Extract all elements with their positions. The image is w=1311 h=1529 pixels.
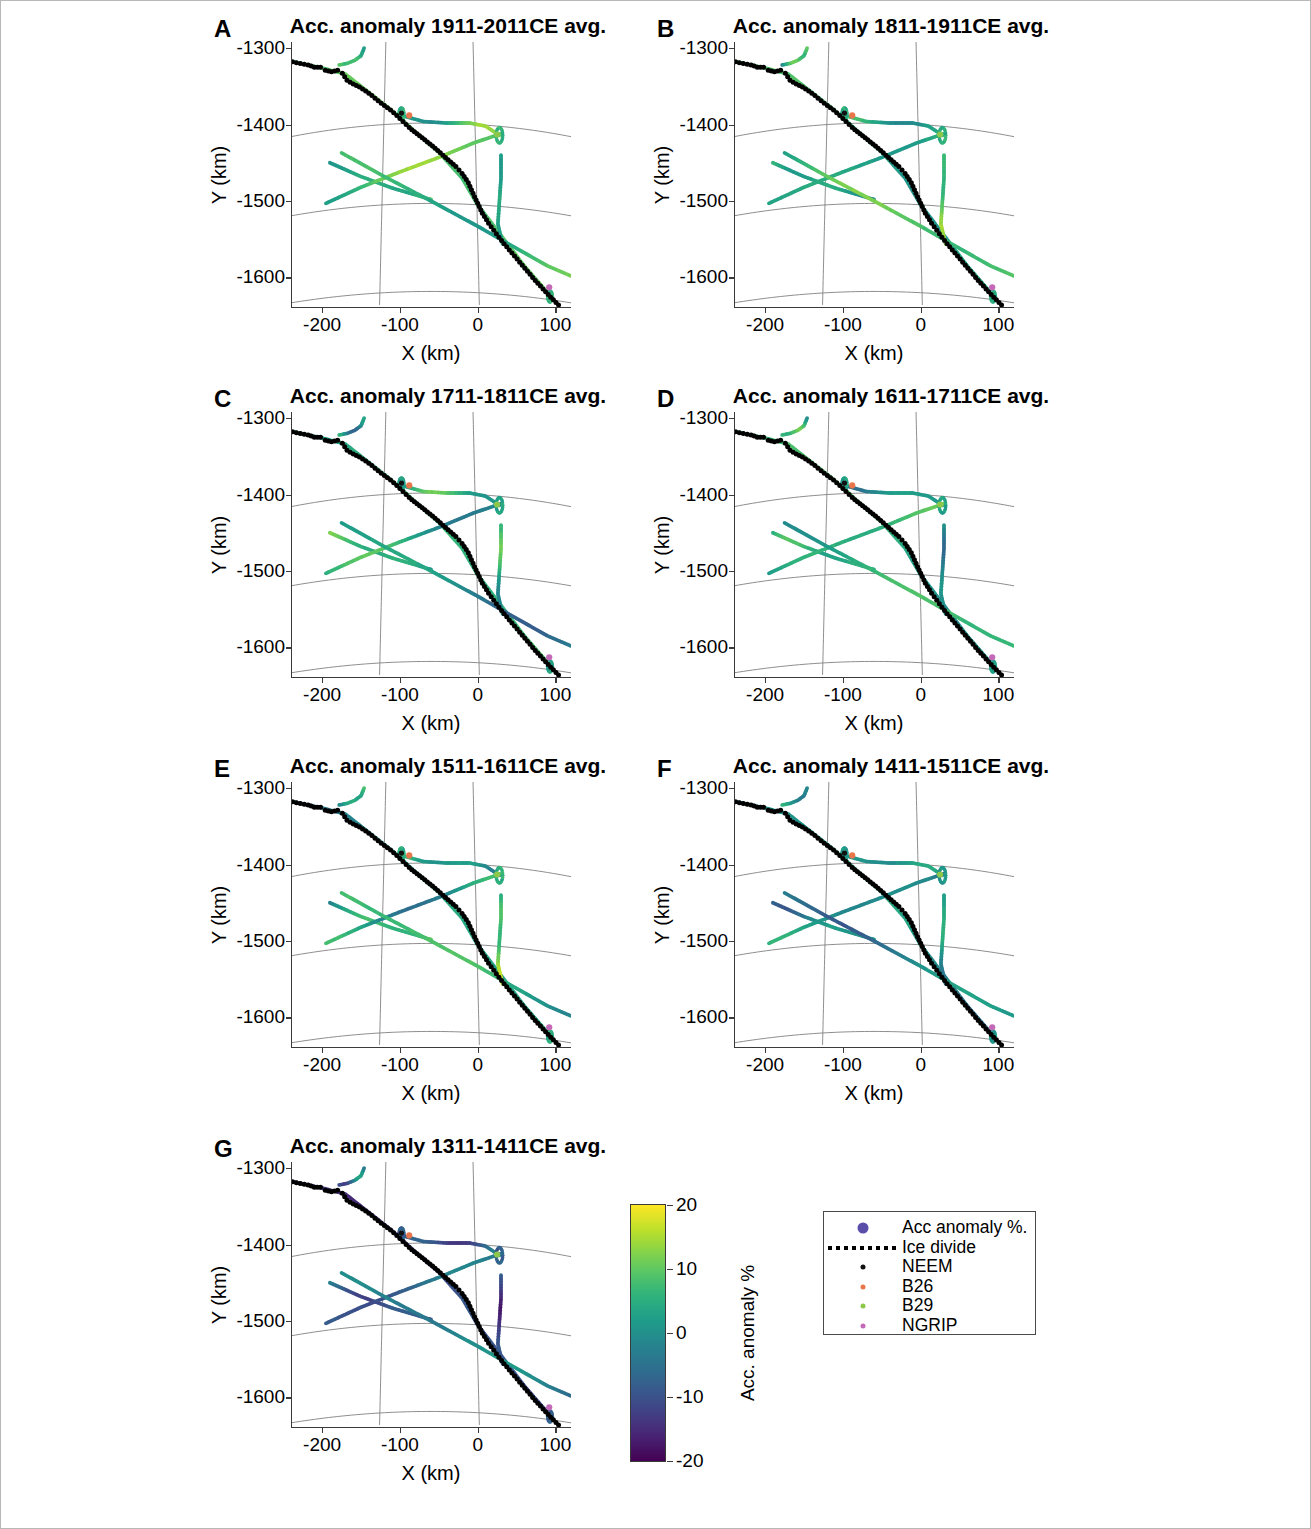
x-tick — [998, 677, 999, 683]
y-tick — [729, 788, 735, 789]
x-tick — [322, 307, 323, 313]
x-tick — [998, 1047, 999, 1053]
x-axis-label: X (km) — [402, 1462, 461, 1485]
ice-divide — [291, 1179, 561, 1427]
site-marker-ngrip — [546, 654, 552, 660]
y-tick — [286, 647, 292, 648]
site-marker-neem — [399, 850, 404, 855]
y-tick — [286, 1017, 292, 1018]
y-axis-label: Y (km) — [208, 146, 231, 205]
x-tick-label: 100 — [963, 684, 1033, 706]
x-axis-label: X (km) — [402, 342, 461, 365]
site-marker-b26 — [406, 112, 412, 118]
y-axis-line — [291, 42, 292, 308]
y-tick — [286, 788, 292, 789]
y-tick-label: -1300 — [215, 1157, 285, 1179]
y-tick — [729, 495, 735, 496]
ice-divide — [734, 799, 1004, 1047]
legend-label: Acc anomaly %. — [902, 1219, 1027, 1237]
y-tick-label: -1300 — [215, 777, 285, 799]
site-marker-neem — [842, 480, 847, 485]
x-tick-label: 100 — [520, 314, 590, 336]
site-marker-b26 — [406, 852, 412, 858]
y-tick-label: -1400 — [215, 114, 285, 136]
y-tick — [286, 418, 292, 419]
legend-item-acc-anomaly: Acc anomaly %. — [824, 1218, 1035, 1238]
ice-divide — [734, 59, 1004, 307]
y-tick — [729, 865, 735, 866]
site-marker-neem — [399, 110, 404, 115]
x-tick-label: -200 — [287, 1434, 357, 1456]
ice-divide — [291, 799, 561, 1047]
colorbar-tick-label: -20 — [676, 1450, 703, 1472]
x-tick-label: 0 — [886, 1054, 956, 1076]
y-axis-label: Y (km) — [208, 516, 231, 575]
legend-label: B29 — [902, 1297, 933, 1315]
x-tick-label: 100 — [520, 1434, 590, 1456]
x-axis-label: X (km) — [845, 712, 904, 735]
y-tick — [729, 277, 735, 278]
y-tick — [286, 1245, 292, 1246]
y-tick — [729, 647, 735, 648]
site-marker-b26 — [406, 1232, 412, 1238]
ice-divide-icon — [824, 1238, 902, 1258]
y-tick — [729, 1017, 735, 1018]
colorbar-tick-label: -10 — [676, 1386, 703, 1408]
legend-item-b26: B26 — [824, 1277, 1035, 1297]
x-tick-label: 0 — [443, 684, 513, 706]
graticule — [291, 782, 571, 1045]
x-tick-label: -100 — [365, 1434, 435, 1456]
colorbar-tick — [667, 1333, 673, 1334]
site-marker-neem — [399, 1230, 404, 1235]
panel-plot-b — [734, 42, 1014, 308]
ice-divide — [291, 429, 561, 677]
y-tick — [286, 941, 292, 942]
x-tick — [843, 307, 844, 313]
y-tick — [729, 201, 735, 202]
y-axis-line — [291, 412, 292, 678]
figure-page: AAcc. anomaly 1911-2011CE avg.-1300-1400… — [0, 0, 1311, 1529]
radar-tracks — [735, 786, 1014, 1044]
plot-area: -1300-1400-1500-1600-200-1000100Y (km)X … — [734, 412, 1014, 678]
panel-title: Acc. anomaly 1711-1811CE avg. — [248, 384, 648, 407]
graticule — [291, 412, 571, 675]
y-tick-label: -1600 — [215, 1386, 285, 1408]
legend-box: Acc anomaly %.Ice divideNEEMB26B29NGRIP — [823, 1211, 1036, 1335]
x-tick-label: -100 — [808, 314, 878, 336]
large-dot-icon — [858, 1223, 869, 1234]
x-tick-label: 100 — [520, 1054, 590, 1076]
site-marker-neem — [842, 110, 847, 115]
y-tick-label: -1400 — [215, 484, 285, 506]
x-axis-label: X (km) — [402, 1082, 461, 1105]
panel-plot-a — [291, 42, 571, 308]
site-marker-b29 — [494, 871, 500, 877]
x-tick — [843, 1047, 844, 1053]
x-tick — [478, 1427, 479, 1433]
x-tick-label: 0 — [886, 314, 956, 336]
x-tick — [400, 677, 401, 683]
y-axis-label: Y (km) — [208, 1266, 231, 1325]
x-axis-line — [291, 677, 571, 678]
site-marker-ngrip — [546, 1404, 552, 1410]
graticule — [734, 412, 1014, 675]
site-marker-ngrip — [989, 284, 995, 290]
panel-d: DAcc. anomaly 1611-1711CE avg.-1300-1400… — [649, 379, 1099, 747]
x-tick-label: 0 — [443, 1054, 513, 1076]
dotted-line-icon — [828, 1246, 896, 1250]
site-marker-ngrip — [546, 1024, 552, 1030]
small-dot-icon — [861, 1265, 866, 1270]
panel-a: AAcc. anomaly 1911-2011CE avg.-1300-1400… — [206, 9, 656, 377]
y-axis-label: Y (km) — [651, 886, 674, 945]
x-tick-label: -200 — [730, 314, 800, 336]
radar-tracks — [292, 46, 571, 304]
y-tick-label: -1300 — [658, 777, 728, 799]
x-tick-label: -200 — [287, 1054, 357, 1076]
colorbar-tick — [667, 1461, 673, 1462]
x-axis-line — [291, 1047, 571, 1048]
y-tick-label: -1600 — [215, 266, 285, 288]
x-tick-label: -200 — [287, 314, 357, 336]
x-tick — [555, 1047, 556, 1053]
x-tick — [555, 307, 556, 313]
x-tick — [765, 677, 766, 683]
plot-area: -1300-1400-1500-1600-200-1000100Y (km)X … — [291, 1162, 571, 1428]
